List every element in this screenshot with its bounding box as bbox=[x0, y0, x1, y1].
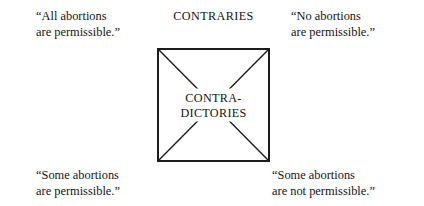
proposition-bottom-left: “Some abortions are permissible.” bbox=[36, 167, 120, 199]
proposition-bottom-right: “Some abortions are not permissible.” bbox=[272, 167, 375, 199]
contradictories-label: CONTRA- DICTORIES bbox=[177, 89, 249, 122]
contraries-label: CONTRARIES bbox=[157, 9, 270, 24]
contradictories-label-line-2: DICTORIES bbox=[180, 105, 246, 120]
proposition-top-right: “No abortions are permissible.” bbox=[291, 8, 375, 40]
square-of-opposition-figure: “All abortions are permissible.” CONTRAR… bbox=[0, 0, 424, 206]
proposition-top-right-line-1: “No abortions bbox=[291, 8, 375, 24]
proposition-top-left-line-1: “All abortions bbox=[36, 8, 120, 24]
proposition-bottom-left-line-1: “Some abortions bbox=[36, 167, 120, 183]
proposition-bottom-right-line-2: are not permissible.” bbox=[272, 183, 375, 199]
proposition-bottom-right-line-1: “Some abortions bbox=[272, 167, 375, 183]
opposition-square: CONTRA- DICTORIES bbox=[157, 48, 270, 162]
proposition-bottom-left-line-2: are permissible.” bbox=[36, 183, 120, 199]
proposition-top-left-line-2: are permissible.” bbox=[36, 24, 120, 40]
proposition-top-left: “All abortions are permissible.” bbox=[36, 8, 120, 40]
contradictories-label-line-1: CONTRA- bbox=[180, 91, 246, 106]
proposition-top-right-line-2: are permissible.” bbox=[291, 24, 375, 40]
